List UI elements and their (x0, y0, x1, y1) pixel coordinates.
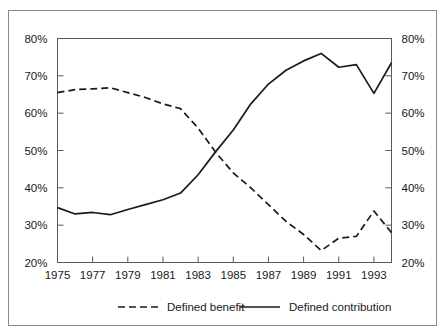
y-axis-tick-label-left: 20% (24, 257, 47, 269)
x-axis-tick-label: 1985 (220, 269, 246, 281)
y-axis-tick-label-left: 50% (24, 145, 47, 157)
x-axis-tick-label: 1989 (291, 269, 317, 281)
chart-legend: Defined benefitDefined contribution (118, 301, 391, 313)
x-axis-tick-label: 1993 (361, 269, 387, 281)
x-axis-tick-label: 1981 (150, 269, 176, 281)
y-axis-tick-label-right: 40% (402, 182, 425, 194)
y-axis-tick-label-right: 50% (402, 145, 425, 157)
chart-canvas: 20%20%30%30%40%40%50%50%60%60%70%70%80%8… (0, 0, 448, 334)
x-axis-tick-label: 1991 (326, 269, 352, 281)
chart-figure: 20%20%30%30%40%40%50%50%60%60%70%70%80%8… (0, 0, 448, 334)
x-axis-tick-label: 1977 (80, 269, 106, 281)
y-axis-tick-label-right: 30% (402, 219, 425, 231)
y-axis-tick-label-left: 60% (24, 107, 47, 119)
legend-label-1: Defined contribution (289, 301, 391, 313)
plot-area-border (58, 39, 392, 263)
x-axis-tick-label: 1987 (256, 269, 282, 281)
y-axis-tick-label-right: 60% (402, 107, 425, 119)
x-axis-tick-label: 1979 (115, 269, 141, 281)
y-axis-tick-label-right: 70% (402, 70, 425, 82)
x-axis-tick-label: 1983 (185, 269, 211, 281)
y-axis-tick-label-left: 70% (24, 70, 47, 82)
y-axis-tick-label-left: 80% (24, 33, 47, 45)
y-axis-tick-label-right: 20% (402, 257, 425, 269)
x-axis-tick-label: 1975 (45, 269, 71, 281)
y-axis-tick-label-right: 80% (402, 33, 425, 45)
y-axis-tick-label-left: 40% (24, 182, 47, 194)
y-axis-tick-label-left: 30% (24, 219, 47, 231)
legend-label-0: Defined benefit (167, 301, 245, 313)
